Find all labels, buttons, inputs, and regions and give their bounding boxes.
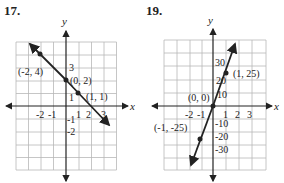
svg-text:30: 30 (215, 57, 225, 68)
x-axis-label: x (273, 100, 279, 112)
svg-text:(1, 1): (1, 1) (86, 91, 108, 103)
problem-17: 17. x y -2 -1 1 (0, 0, 142, 183)
svg-text:3: 3 (69, 62, 74, 73)
svg-text:-20: -20 (215, 131, 228, 142)
svg-text:-1: -1 (197, 109, 205, 120)
svg-text:(-2, 4): (-2, 4) (18, 66, 43, 78)
problem-19: 19. x y -2 -1 1 (142, 0, 284, 183)
point-labels: (-2, 4) (0, 2) (1, 1) (18, 66, 108, 103)
svg-text:(0, 2): (0, 2) (70, 75, 92, 87)
svg-text:-2: -2 (185, 109, 193, 120)
svg-text:-1: -1 (48, 109, 56, 120)
x-axis-label: x (129, 100, 135, 112)
graph-19: x y -2 -1 1 2 3 30 20 10 -10 -20 -30 (0,… (142, 0, 284, 183)
y-axis-label: y (61, 15, 67, 27)
svg-text:-2: -2 (67, 126, 75, 137)
y-tick-labels: 3 1 -1 -2 (67, 62, 75, 137)
svg-text:-30: -30 (215, 144, 228, 155)
svg-text:(1, 25): (1, 25) (233, 68, 260, 80)
axes (6, 31, 128, 181)
svg-text:(-1, -25): (-1, -25) (154, 122, 187, 134)
svg-text:2: 2 (86, 109, 91, 120)
svg-text:3: 3 (247, 109, 252, 120)
svg-text:2: 2 (235, 109, 240, 120)
svg-text:1: 1 (69, 92, 74, 103)
y-axis-label: y (207, 14, 213, 26)
svg-text:1: 1 (76, 109, 81, 120)
svg-text:-1: -1 (67, 114, 75, 125)
svg-text:-10: -10 (215, 118, 228, 129)
graph-17: x y -2 -1 1 2 3 3 1 -1 -2 (-2, 4) (0, 2)… (0, 0, 142, 183)
svg-text:-2: -2 (36, 109, 44, 120)
svg-text:(0, 0): (0, 0) (188, 92, 210, 104)
